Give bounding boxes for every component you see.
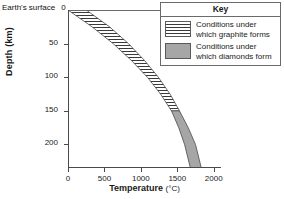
y-tick: 100 [64, 77, 68, 78]
y-tick: 200 [64, 144, 68, 145]
earth-surface-value: 0 [61, 3, 65, 12]
x-tick: 1500 [177, 168, 178, 172]
x-axis-title-text: Temperature [109, 183, 163, 193]
x-tick: 2000 [214, 168, 215, 172]
x-axis-line [68, 167, 221, 168]
y-tick-label: 150 [45, 105, 58, 115]
key-entry-diamond: Conditions under which diamonds form [165, 42, 277, 61]
figure-root: Earth's surface 0 Depth (km) 50100150200… [0, 0, 284, 199]
y-tick-label: 200 [45, 138, 58, 148]
key-box: Key Conditions under which graphite form… [160, 2, 281, 66]
key-entry-graphite-label: Conditions under which graphite forms [196, 20, 277, 39]
y-axis-title: Depth (km) [4, 27, 14, 76]
key-title: Key [161, 3, 280, 17]
y-tick-label: 100 [45, 71, 58, 81]
earth-surface-text: Earth's surface [2, 3, 55, 12]
y-tick: 50 [64, 44, 68, 45]
x-tick: 0 [68, 168, 69, 172]
y-tick-label: 50 [49, 38, 58, 48]
x-axis-unit: (°C) [166, 184, 180, 193]
key-entry-graphite: Conditions under which graphite forms [165, 20, 277, 39]
x-axis-title: Temperature (°C) [68, 183, 221, 193]
x-tick: 500 [104, 168, 105, 172]
key-entries: Conditions under which graphite forms Co… [161, 17, 280, 65]
horizontal-hatch-swatch-icon [165, 21, 191, 37]
key-entry-diamond-label: Conditions under which diamonds form [196, 42, 277, 61]
solid-gray-swatch-icon [165, 43, 191, 59]
y-axis-line [68, 10, 69, 168]
x-tick: 1000 [141, 168, 142, 172]
earth-surface-label: Earth's surface 0 [2, 3, 66, 13]
y-tick: 150 [64, 111, 68, 112]
